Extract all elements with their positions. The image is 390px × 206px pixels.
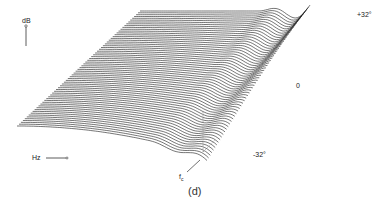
depth-tick-plus32: +32° bbox=[357, 11, 372, 18]
hz-arrow-head-icon bbox=[66, 157, 68, 159]
fc-label-sub: c bbox=[181, 176, 184, 182]
x-axis-label: Hz bbox=[32, 154, 41, 161]
db-arrow-head-icon bbox=[25, 25, 27, 27]
fc-pointer-line bbox=[187, 160, 200, 172]
waterfall-trace bbox=[74, 73, 255, 91]
depth-tick-minus32: -32° bbox=[253, 151, 266, 158]
waterfall-plot bbox=[0, 0, 390, 206]
y-axis-label: dB bbox=[22, 17, 31, 24]
waterfall-trace bbox=[78, 69, 258, 86]
waterfall-traces bbox=[17, 5, 310, 160]
panel-label: (d) bbox=[188, 186, 201, 197]
waterfall-trace bbox=[76, 71, 256, 89]
depth-tick-zero: 0 bbox=[296, 82, 300, 89]
fc-label: fc bbox=[179, 173, 183, 182]
